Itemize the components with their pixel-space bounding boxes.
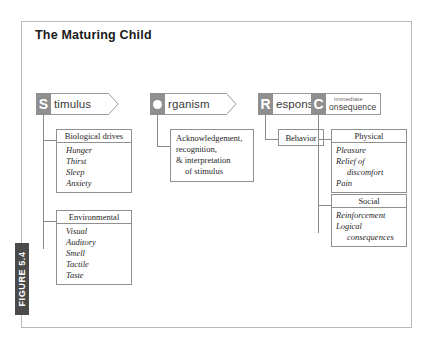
banner-organism-word: rganism	[168, 93, 210, 115]
box-environmental: Environmental Visual Auditory Smell Tact…	[56, 210, 132, 285]
list-item: Smell	[66, 248, 131, 259]
connector-stimulus-branch-2	[43, 221, 57, 222]
box-organism-process-lines: Acknowledgement, recognition, & interpre…	[171, 130, 253, 181]
list-item: Anxiety	[66, 178, 131, 189]
connector-consequence-branch-2	[318, 205, 332, 206]
banner-consequence-main: onsequence	[329, 103, 376, 112]
list-item: Pain	[336, 178, 406, 189]
list-item: consequences	[336, 232, 406, 243]
figure-number-tab: FIGURE 5.4	[15, 243, 29, 315]
letter-o-dot-icon	[153, 100, 162, 109]
banner-consequence-word: immediate onsequence	[329, 93, 376, 115]
box-biological-drives-items: Hunger Thirst Sleep Anxiety	[57, 143, 131, 192]
list-item: Thirst	[66, 156, 131, 167]
box-social-heading: Social	[332, 195, 406, 208]
figure-number-label: FIGURE 5.4	[17, 251, 27, 306]
list-item: Tactile	[66, 259, 131, 270]
column-stimulus: S timulus Biological drives Hunger Thirs…	[36, 93, 132, 115]
banner-stimulus-arrow-icon	[108, 93, 119, 115]
box-organism-process: Acknowledgement, recognition, & interpre…	[170, 129, 254, 182]
box-behavior-label: Behavior	[279, 130, 323, 145]
connector-organism-branch-1	[157, 146, 171, 147]
connector-organism-trunk	[157, 115, 158, 147]
list-item: Taste	[66, 270, 131, 281]
box-environmental-items: Visual Auditory Smell Tactile Taste	[57, 224, 131, 283]
column-organism: rganism Acknowledgement, recognition, & …	[150, 93, 254, 115]
list-item: Relief of	[336, 156, 406, 167]
text-line: & interpretation	[176, 155, 249, 166]
connector-consequence-branch-1	[318, 139, 332, 140]
connector-consequence-trunk	[318, 115, 319, 233]
box-biological-drives-heading: Biological drives	[57, 130, 131, 143]
list-item: Reinforcement	[336, 210, 406, 221]
box-social-items: Reinforcement Logical consequences	[332, 208, 406, 246]
banner-consequence-initial: C	[311, 93, 326, 115]
list-item: Auditory	[66, 237, 131, 248]
banner-organism-arrow-icon	[226, 93, 237, 115]
banner-organism: rganism	[150, 93, 254, 115]
banner-stimulus-initial: S	[36, 93, 51, 115]
text-line: Acknowledgement,	[176, 133, 249, 144]
connector-response-branch-1	[265, 139, 279, 140]
banner-stimulus: S timulus	[36, 93, 132, 115]
banner-consequence: C immediate onsequence	[311, 93, 407, 115]
list-item: discomfort	[336, 167, 406, 178]
box-physical-items: Pleasure Relief of discomfort Pain	[332, 143, 406, 192]
text-line: recognition,	[176, 144, 249, 155]
banner-organism-initial	[150, 93, 165, 115]
box-biological-drives: Biological drives Hunger Thirst Sleep An…	[56, 129, 132, 193]
list-item: Hunger	[66, 145, 131, 156]
banner-stimulus-word: timulus	[54, 93, 91, 115]
list-item: Visual	[66, 226, 131, 237]
banner-response-initial: R	[258, 93, 273, 115]
diagram-title: The Maturing Child	[35, 28, 152, 42]
connector-stimulus-trunk	[43, 115, 44, 249]
list-item: Logical	[336, 221, 406, 232]
box-physical: Physical Pleasure Relief of discomfort P…	[331, 129, 407, 193]
box-physical-heading: Physical	[332, 130, 406, 143]
text-line: of stimulus	[176, 166, 249, 177]
list-item: Pleasure	[336, 145, 406, 156]
box-social: Social Reinforcement Logical consequence…	[331, 194, 407, 247]
column-consequence: C immediate onsequence Physical Pleasure…	[311, 93, 407, 115]
box-environmental-heading: Environmental	[57, 211, 131, 224]
list-item: Sleep	[66, 167, 131, 178]
connector-response-trunk	[265, 115, 266, 140]
connector-stimulus-branch-1	[43, 140, 57, 141]
